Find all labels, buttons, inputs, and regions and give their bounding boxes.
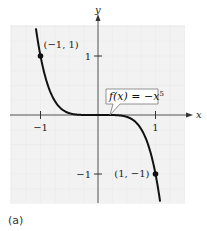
point-label: (1, −1) [114, 168, 149, 179]
svg-text:f(x) = −x5: f(x) = −x5 [108, 90, 164, 103]
y-tick-label: −1 [76, 169, 91, 180]
x-tick-label: 1 [152, 122, 158, 133]
function-label-exponent: 5 [160, 90, 164, 98]
point-marker [153, 171, 159, 177]
function-graph: x y −111−1 (−1, 1)(1, −1) f(x) = −x5 [0, 0, 207, 231]
point-marker [38, 53, 44, 59]
x-axis-label: x [196, 109, 202, 120]
point-label: (−1, 1) [44, 39, 79, 50]
function-label: f(x) = −x [108, 90, 160, 103]
x-tick-label: −1 [33, 122, 48, 133]
y-axis-label: y [94, 4, 101, 15]
figure-caption: (a) [8, 214, 23, 227]
x-axis-arrow-icon [186, 113, 193, 118]
y-axis-arrow-icon [96, 14, 101, 21]
y-tick-label: 1 [85, 51, 91, 62]
